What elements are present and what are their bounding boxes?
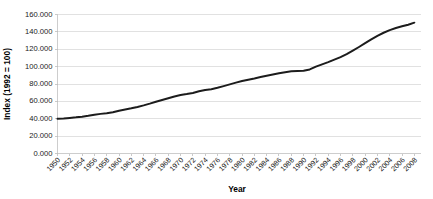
y-axis-title: Index (1992 = 100)	[2, 48, 12, 120]
y-axis-tick-label: 100.000	[25, 62, 52, 71]
y-axis-tick-label: 160.000	[25, 10, 52, 19]
gridlines-group	[58, 15, 421, 154]
data-line-series	[58, 23, 415, 119]
y-axis-tick-label: 20.000	[29, 131, 52, 140]
x-axis-tick-label: 2008	[401, 156, 419, 174]
data-series-group	[58, 23, 415, 119]
x-axis-title: Year	[228, 184, 246, 194]
y-axis-tick-labels: 0.00020.00040.00060.00080.000100.000120.…	[25, 10, 57, 158]
chart-container: 0.00020.00040.00060.00080.000100.000120.…	[0, 0, 433, 199]
y-axis-tick-label: 40.000	[29, 114, 52, 123]
y-axis-tick-label: 140.000	[25, 27, 52, 36]
y-axis-tick-label: 0.000	[33, 149, 52, 158]
x-axis-tick-labels: 1950195219541956195819601962196419661968…	[44, 156, 419, 174]
line-chart: 0.00020.00040.00060.00080.000100.000120.…	[0, 0, 433, 199]
y-axis-tick-label: 60.000	[29, 96, 52, 105]
y-axis-tick-label: 120.000	[25, 44, 52, 53]
y-axis-tick-label: 80.000	[29, 79, 52, 88]
